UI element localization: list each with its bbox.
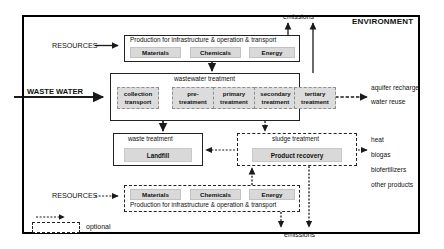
stage-line2: treatment [179, 98, 207, 106]
stage-line1: tertiary [305, 90, 326, 98]
sludge-treatment-title: sludge treatment [272, 136, 319, 143]
output-water-reuse: water reuse [371, 99, 405, 106]
stage-line2: treatment [301, 98, 329, 106]
product-recovery-item[interactable]: Product recovery [252, 148, 342, 162]
stage-line2: treatment [220, 98, 248, 106]
environment-label: ENVIRONMENT [352, 18, 413, 26]
stage-line2: transport [125, 98, 152, 106]
chip-energy-top[interactable]: Energy [249, 47, 295, 58]
waste-treatment-title: waste treatment [128, 136, 173, 143]
chip-chemicals-bottom[interactable]: Chemicals [190, 189, 241, 200]
output-other-products: other products [371, 182, 413, 189]
stage-secondary-treatment[interactable]: secondary treatment [254, 87, 297, 109]
waste-water-label: WASTE WATER [27, 88, 83, 96]
legend-optional-box [32, 222, 80, 233]
stage-line1: primary [223, 90, 245, 98]
emissions-bottom-label: emissions [284, 231, 315, 238]
resources-bottom-label: RESOURCES [52, 192, 98, 200]
stage-collection-transport[interactable]: collection transport [117, 87, 159, 109]
chip-materials-bottom[interactable]: Materials [130, 189, 181, 200]
wastewater-treatment-title: wastewater treatment [174, 76, 235, 83]
stage-line1: collection [124, 90, 152, 98]
output-aquifer-recharge: aquifer recharge [371, 85, 419, 92]
output-biofertilizers: biofertilizers [371, 167, 406, 174]
stage-tertiary-treatment[interactable]: tertiary treatment [294, 87, 336, 109]
output-biogas: biogas [371, 152, 390, 159]
stage-line1: pre- [187, 90, 199, 98]
production-bottom-title: Production for infrastructure & operatio… [130, 202, 276, 209]
chip-materials-top[interactable]: Materials [130, 47, 181, 58]
production-top-title: Production for infrastructure & operatio… [130, 37, 276, 44]
stage-pre-treatment[interactable]: pre- treatment [172, 87, 214, 109]
stage-line2: treatment [262, 98, 290, 106]
chip-energy-bottom[interactable]: Energy [249, 189, 295, 200]
diagram-canvas: ENVIRONMENT Production for infrastructur… [0, 0, 444, 249]
legend-optional-label: optional [86, 223, 111, 230]
emissions-top-label: emissions [283, 13, 314, 20]
stage-line1: secondary [260, 90, 290, 98]
landfill-item[interactable]: Landfill [124, 148, 192, 162]
stage-primary-treatment[interactable]: primary treatment [213, 87, 255, 109]
output-heat: heat [371, 137, 384, 144]
resources-top-label: RESOURCES [52, 42, 98, 50]
chip-chemicals-top[interactable]: Chemicals [190, 47, 241, 58]
